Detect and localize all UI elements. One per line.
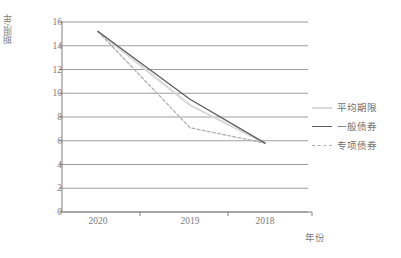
legend-label: 专项债券 — [337, 138, 377, 152]
y-tick-label: 10 — [36, 88, 62, 98]
legend-label: 平均期限 — [337, 100, 377, 114]
y-tick-labels: 1614121086420 — [30, 0, 62, 258]
chart-figure: 期限/年 1614121086420 202020192018 年份 平均期限 … — [0, 0, 401, 258]
y-tick-label: 4 — [36, 160, 62, 170]
y-tick-label: 14 — [36, 41, 62, 51]
y-tick-label: 16 — [36, 17, 62, 27]
gridlines-group — [62, 22, 308, 212]
chart-legend: 平均期限 一般债券 专项债券 — [312, 97, 400, 154]
y-tick-label: 8 — [36, 112, 62, 122]
legend-item-special-bond[interactable]: 专项债券 — [312, 135, 400, 154]
x-tick-label: 2019 — [165, 216, 215, 226]
y-tick-label: 2 — [36, 183, 62, 193]
x-tick-label: 2020 — [73, 216, 123, 226]
y-tick-label: 0 — [36, 207, 62, 217]
series-line — [98, 32, 265, 144]
legend-label: 一般债券 — [337, 119, 377, 133]
series-group — [98, 32, 265, 144]
series-line — [98, 32, 265, 144]
series-line — [98, 32, 265, 144]
legend-swatch-dashed-line-icon — [312, 140, 332, 150]
legend-swatch-line-icon — [312, 102, 332, 112]
y-tick-label: 12 — [36, 65, 62, 75]
legend-swatch-line-icon — [312, 121, 332, 131]
legend-item-average[interactable]: 平均期限 — [312, 97, 400, 116]
y-tick-label: 6 — [36, 136, 62, 146]
x-tick-label: 2018 — [240, 216, 290, 226]
legend-item-general-bond[interactable]: 一般债券 — [312, 116, 400, 135]
x-axis-label: 年份 — [305, 230, 325, 244]
